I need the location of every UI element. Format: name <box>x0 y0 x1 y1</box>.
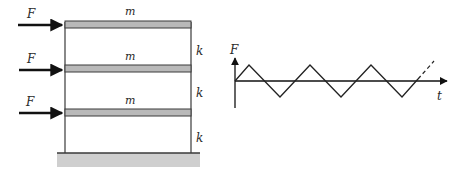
stiffness-label-middle: k <box>196 86 203 100</box>
mass-label-bottom: m <box>125 94 135 107</box>
stiffness-label-top: k <box>196 44 203 58</box>
force-label-middle: F <box>26 52 36 66</box>
time-axis-label: t <box>437 89 442 103</box>
force-label-bottom: F <box>25 95 35 109</box>
force-label-top: F <box>26 7 36 21</box>
slab-middle <box>65 65 191 72</box>
mass-label-middle: m <box>125 50 135 63</box>
wave-continuation-dashed <box>418 61 434 79</box>
mass-label-top: m <box>125 5 135 18</box>
load-time-graph: F t <box>229 43 447 108</box>
slab-bottom <box>65 109 191 116</box>
shear-frame: m m m F F F k k k <box>18 5 203 167</box>
slab-top <box>65 21 191 28</box>
diagram-canvas: m m m F F F k k k F t <box>0 0 462 174</box>
stiffness-label-bottom: k <box>196 131 203 145</box>
ground-hatch <box>57 153 200 167</box>
force-axis-label: F <box>229 43 239 57</box>
